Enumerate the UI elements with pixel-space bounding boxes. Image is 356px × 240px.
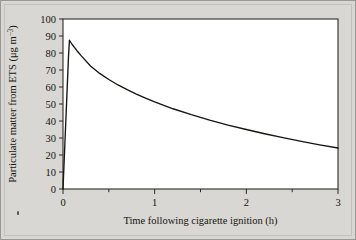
chart-figure: 0102030405060708090100 0123 Time followi… xyxy=(0,0,356,240)
y-tick-label: 30 xyxy=(46,133,57,144)
y-axis-title: Particulate matter from ETS (μg m−3) xyxy=(7,25,19,183)
y-tick-label: 100 xyxy=(40,14,56,25)
chart-canvas: 0102030405060708090100 0123 Time followi… xyxy=(1,1,356,240)
y-tick-label: 70 xyxy=(46,65,57,76)
plot-area-background xyxy=(63,19,338,189)
y-axis-ticks: 0102030405060708090100 xyxy=(40,14,63,195)
y-tick-label: 40 xyxy=(46,116,57,127)
y-tick-label: 80 xyxy=(46,48,57,59)
y-tick-label: 50 xyxy=(46,99,57,110)
y-tick-label: 10 xyxy=(46,167,57,178)
x-tick-label: 1 xyxy=(152,197,157,208)
x-tick-label: 3 xyxy=(335,197,340,208)
y-tick-label: 60 xyxy=(46,82,57,93)
y-tick-label: 0 xyxy=(51,184,56,195)
x-tick-label: 2 xyxy=(244,197,249,208)
x-axis-title: Time following cigarette ignition (h) xyxy=(123,215,278,227)
y-tick-label: 20 xyxy=(46,150,57,161)
x-tick-label: 0 xyxy=(60,197,65,208)
y-tick-label: 90 xyxy=(46,31,57,42)
